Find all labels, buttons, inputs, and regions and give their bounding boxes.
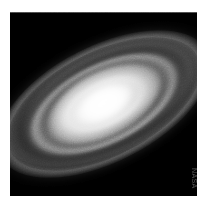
galaxy-dust-lane: [10, 12, 197, 196]
film-grain-overlay: [10, 12, 197, 196]
galaxy-central-bulge: [35, 48, 171, 160]
galaxy-nucleus: [68, 74, 140, 134]
plate-top-seam: [10, 12, 197, 13]
galaxy-spiral-arm-rings: [10, 12, 197, 196]
galaxy-outer-halo: [10, 12, 197, 196]
astronomical-image-plate: [10, 12, 197, 196]
image-page: NASA: [0, 0, 217, 206]
galaxy-spiral-arm-rings-secondary: [10, 12, 197, 195]
nasa-credit-label: NASA: [189, 168, 199, 200]
